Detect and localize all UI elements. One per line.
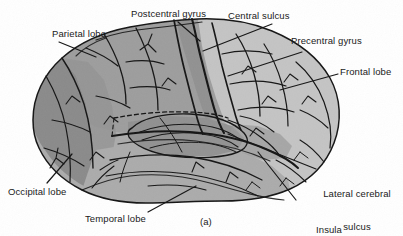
label-insula: Insula (projected to surface) [256, 202, 402, 236]
label-insula-line1: Insula [256, 224, 402, 235]
label-parietal-lobe: Parietal lobe [52, 28, 106, 39]
label-postcentral-gyrus: Postcentral gyrus [131, 8, 206, 19]
label-precentral-gyrus: Precentral gyrus [291, 35, 362, 46]
label-occipital-lobe: Occipital lobe [8, 186, 66, 197]
label-frontal-lobe: Frontal lobe [340, 66, 391, 77]
brain-anatomy-figure: Parietal lobe Postcentral gyrus Central … [0, 0, 403, 236]
label-central-sulcus: Central sulcus [228, 10, 290, 21]
label-temporal-lobe: Temporal lobe [85, 213, 146, 224]
figure-caption: (a) [200, 216, 212, 227]
label-lateral-cerebral-sulcus-line1: Lateral cerebral [313, 188, 401, 199]
